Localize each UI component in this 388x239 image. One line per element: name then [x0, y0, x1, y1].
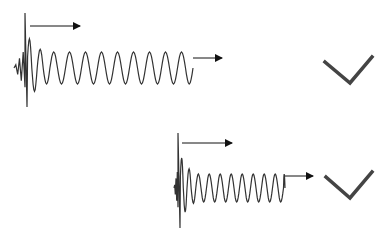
checkmark-icon — [326, 172, 372, 198]
diagram-svg — [0, 0, 388, 239]
diagram-canvas — [0, 0, 388, 239]
damped-wave-bottom — [174, 133, 285, 228]
bottom-panel — [174, 133, 372, 228]
checkmark-icon — [325, 57, 372, 83]
damped-wave-top — [14, 13, 193, 107]
top-panel — [14, 13, 372, 107]
